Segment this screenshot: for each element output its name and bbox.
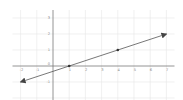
x-tick-label: 1 xyxy=(69,68,71,72)
marked-point xyxy=(68,65,71,68)
grid xyxy=(13,10,175,100)
y-tick-label: 3 xyxy=(48,16,50,20)
x-tick-label: 3 xyxy=(101,68,103,72)
series-line xyxy=(21,34,167,82)
x-tick-label: 2 xyxy=(85,68,87,72)
origin-label: 0 xyxy=(48,62,51,66)
y-tick-label: 2 xyxy=(48,32,50,36)
y-tick-label: 1 xyxy=(48,48,50,52)
series xyxy=(21,34,167,82)
y-tick-label: -1 xyxy=(46,80,50,84)
x-tick-label: 5 xyxy=(134,68,136,72)
x-tick-label: 4 xyxy=(117,68,120,72)
x-tick-label: -1 xyxy=(36,68,40,72)
marked-point xyxy=(117,49,120,52)
x-tick-label: 7 xyxy=(166,68,168,72)
x-tick-label: 6 xyxy=(150,68,153,72)
line-chart: -2-11234567-11230 xyxy=(0,0,183,100)
x-tick-label: -2 xyxy=(20,68,24,72)
